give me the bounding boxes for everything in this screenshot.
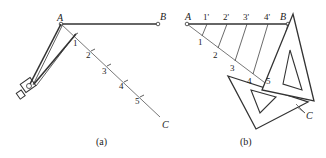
- primed-label-4: 4': [264, 12, 271, 22]
- division-label-4: 4: [119, 81, 124, 91]
- diagram-canvas: A B C 1 2 3 4 5 (a) A B C: [0, 0, 326, 158]
- compass-icon: [16, 24, 76, 99]
- primed-label-1: 1': [203, 12, 210, 22]
- division-label-2: 2: [213, 50, 218, 60]
- primed-label-2: 2': [223, 12, 230, 22]
- caption-b: (b): [240, 136, 252, 148]
- division-label-1: 1: [73, 38, 78, 48]
- label-c: C: [306, 110, 313, 121]
- point-b-marker: [156, 22, 160, 26]
- division-label-5: 5: [135, 96, 140, 106]
- label-c: C: [162, 119, 169, 130]
- caption-a: (a): [96, 136, 107, 148]
- division-ticks: [74, 33, 144, 97]
- division-label-4: 4: [247, 76, 252, 86]
- primed-label-3: 3': [243, 12, 250, 22]
- label-b: B: [160, 11, 166, 22]
- division-label-3: 3: [230, 63, 235, 73]
- division-label-1: 1: [198, 37, 203, 47]
- panel-a: A B C 1 2 3 4 5 (a): [16, 11, 169, 148]
- label-a: A: [56, 12, 64, 23]
- set-squares-icon: [228, 14, 314, 129]
- division-label-3: 3: [102, 66, 107, 76]
- division-label-5: 5: [266, 76, 271, 86]
- division-label-2: 2: [86, 50, 91, 60]
- label-b: B: [280, 11, 286, 22]
- point-a-marker: [185, 22, 189, 26]
- panel-b: A B C 1' 2' 3' 4' 1 2 3 4 5 (b): [184, 11, 314, 148]
- label-a: A: [184, 11, 192, 22]
